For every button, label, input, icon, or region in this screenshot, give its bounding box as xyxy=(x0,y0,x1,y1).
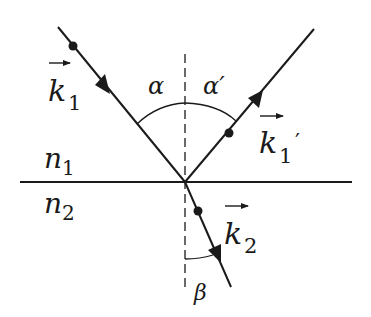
k1-vector-label: k 1 xyxy=(48,63,81,115)
alpha-arc xyxy=(137,103,185,124)
alpha-prime-arc xyxy=(185,103,236,121)
svg-text:1: 1 xyxy=(68,91,81,115)
incident-ray-dot xyxy=(69,42,78,51)
svg-text:k: k xyxy=(48,73,66,108)
svg-text:2: 2 xyxy=(244,234,257,258)
incident-arrowhead xyxy=(95,74,110,94)
beta-label: β xyxy=(193,280,207,305)
n1-label: n 1 xyxy=(44,142,75,180)
svg-text:n: n xyxy=(44,187,62,220)
n2-label: n 2 xyxy=(44,187,75,225)
k1-prime-vector-label: k 1 ′ xyxy=(259,116,300,168)
beta-arc xyxy=(185,255,213,259)
refraction-diagram: α α′ β k 1 k 1 ′ k 2 n 1 n 2 xyxy=(0,0,371,317)
svg-text:1: 1 xyxy=(279,144,292,168)
svg-text:2: 2 xyxy=(62,201,75,225)
svg-text:n: n xyxy=(44,142,62,175)
svg-text:′: ′ xyxy=(295,129,300,154)
alpha-prime-label: α′ xyxy=(203,72,225,100)
refracted-ray-dot xyxy=(194,207,203,216)
k2-vector-label: k 2 xyxy=(224,206,257,258)
svg-text:k: k xyxy=(224,216,242,251)
reflected-ray-dot xyxy=(225,129,234,138)
svg-text:1: 1 xyxy=(62,156,75,180)
svg-text:k: k xyxy=(259,125,277,160)
alpha-label: α xyxy=(148,72,164,100)
